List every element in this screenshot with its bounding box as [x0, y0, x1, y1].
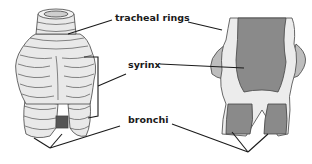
syrinx-diagram — [0, 0, 312, 164]
cross-section-syrinx-illustration — [211, 18, 306, 136]
label-bronchi: bronchi — [128, 114, 168, 125]
label-syrinx: syrinx — [128, 59, 161, 70]
external-syrinx-illustration — [16, 9, 96, 138]
label-tracheal-rings: tracheal rings — [115, 12, 190, 23]
